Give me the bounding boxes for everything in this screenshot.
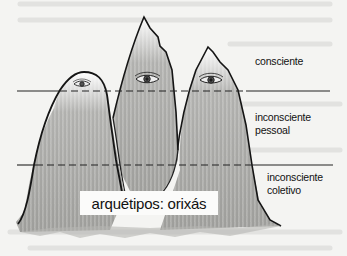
label-line: pessoal <box>255 124 311 137</box>
label-consciente: consciente <box>255 55 303 68</box>
label-inconsciente-pessoal: inconsciente pessoal <box>255 111 311 137</box>
archetypes-label-box: arquétipos: orixás <box>80 191 218 215</box>
label-line: inconsciente <box>255 111 311 124</box>
label-inconsciente-coletivo: inconsciente coletivo <box>267 171 323 197</box>
middle-peak <box>113 17 178 200</box>
label-line: coletivo <box>267 184 323 197</box>
label-line: inconsciente <box>267 171 323 184</box>
archetypes-label: arquétipos: orixás <box>92 195 207 212</box>
